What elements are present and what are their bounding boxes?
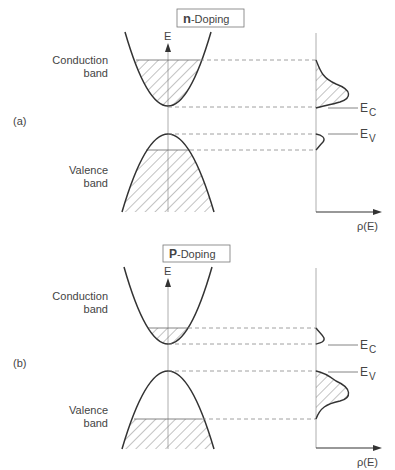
arrow-up-icon bbox=[165, 278, 171, 287]
ec-label: EC bbox=[360, 101, 376, 118]
valence-label-2: band bbox=[84, 417, 108, 429]
dos-conduction-curve bbox=[316, 328, 324, 344]
valence-label: Valence bbox=[69, 164, 108, 176]
energy-axis-label: E bbox=[164, 265, 171, 277]
panel-a: n-Doping E ρ(E) EC bbox=[13, 9, 382, 232]
ev-label: EV bbox=[360, 365, 376, 382]
panel-tag: (b) bbox=[13, 357, 26, 369]
valence-fill bbox=[118, 419, 218, 449]
conduction-fill bbox=[120, 60, 220, 110]
ec-label: EC bbox=[360, 338, 376, 355]
conduction-label-2: band bbox=[84, 67, 108, 79]
panel-b: P-Doping E ρ(E) EC EV Conduction band bbox=[13, 245, 382, 468]
conduction-fill bbox=[120, 328, 220, 348]
dos-label: ρ(E) bbox=[357, 456, 378, 468]
dos-valence-curve bbox=[316, 134, 324, 150]
arrow-up-icon bbox=[165, 43, 171, 52]
panel-tag: (a) bbox=[13, 115, 26, 127]
conduction-label-2: band bbox=[84, 303, 108, 315]
dos-label: ρ(E) bbox=[357, 220, 378, 232]
panel-b-title: P-Doping bbox=[169, 247, 216, 261]
arrow-right-icon bbox=[373, 209, 382, 215]
conduction-label: Conduction bbox=[52, 54, 108, 66]
ev-label: EV bbox=[360, 127, 376, 144]
valence-label-2: band bbox=[84, 177, 108, 189]
valence-label: Valence bbox=[69, 404, 108, 416]
conduction-label: Conduction bbox=[52, 290, 108, 302]
panel-a-title: n-Doping bbox=[183, 11, 229, 26]
energy-axis-label: E bbox=[164, 30, 171, 42]
arrow-right-icon bbox=[373, 445, 382, 451]
band-diagram: n-Doping E ρ(E) EC bbox=[0, 0, 395, 470]
guide-lines bbox=[168, 328, 316, 419]
